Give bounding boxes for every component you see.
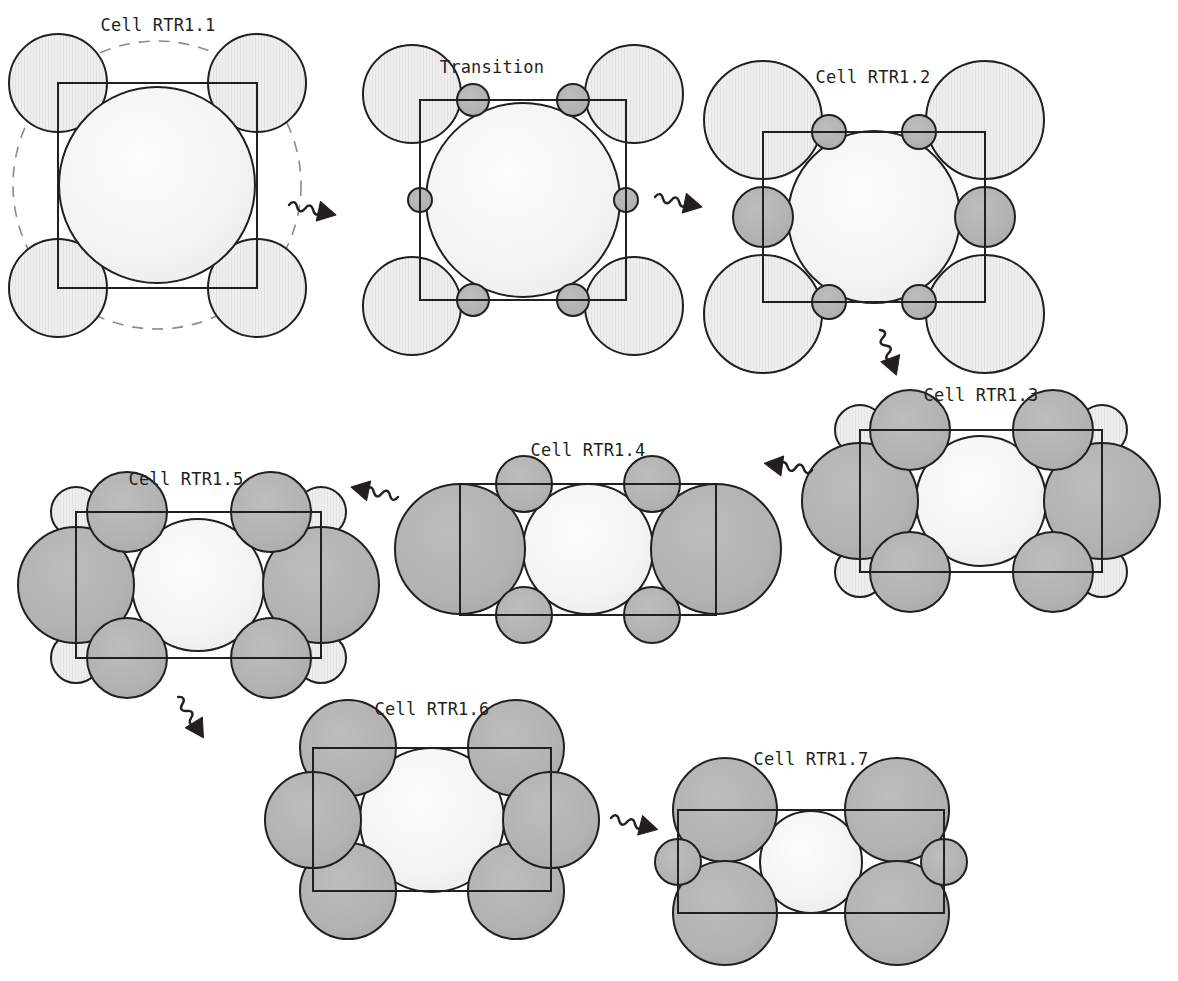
panels-layer xyxy=(9,34,1160,965)
panel-rtr1-2 xyxy=(704,61,1044,373)
panel-rtr1-7 xyxy=(655,758,967,965)
transition-corner-sphere-br xyxy=(585,257,683,355)
arrow-rtr1-2-to-rtr1-3 xyxy=(871,327,906,379)
arrow-head-icon xyxy=(316,201,338,224)
rtr1-1-center-sphere xyxy=(59,87,255,283)
arrow-head-icon xyxy=(682,193,704,216)
transition-corner-sphere-bl xyxy=(363,257,461,355)
squiggle-line xyxy=(610,814,644,829)
panel-label-rtr1-6: Cell RTR1.6 xyxy=(375,699,490,719)
arrow-transition-to-rtr1-2 xyxy=(653,187,704,217)
panel-label-rtr1-3: Cell RTR1.3 xyxy=(924,385,1039,405)
squiggle-line xyxy=(365,486,399,500)
panel-label-rtr1-1: Cell RTR1.1 xyxy=(101,15,216,35)
panel-rtr1-4 xyxy=(395,456,781,643)
arrow-head-icon xyxy=(638,816,660,840)
arrow-head-icon xyxy=(881,355,906,379)
arrow-rtr1-4-to-rtr1-5 xyxy=(349,477,400,507)
transition-corner-sphere-tr xyxy=(585,45,683,143)
figure-canvas: Cell RTR1.1TransitionCell RTR1.2Cell RTR… xyxy=(0,0,1178,981)
panel-label-rtr1-2: Cell RTR1.2 xyxy=(816,67,931,87)
arrow-rtr1-1-to-transition xyxy=(287,195,338,225)
panel-label-rtr1-7: Cell RTR1.7 xyxy=(754,749,869,769)
panel-label-rtr1-4: Cell RTR1.4 xyxy=(531,440,646,460)
rtr1-2-center-sphere xyxy=(788,131,960,303)
panel-transition xyxy=(363,45,683,355)
panel-rtr1-1 xyxy=(9,34,306,337)
squiggle-line xyxy=(654,193,688,207)
arrow-head-icon xyxy=(763,453,784,475)
panel-label-transition: Transition xyxy=(440,57,544,77)
panel-label-rtr1-5: Cell RTR1.5 xyxy=(129,469,244,489)
transition-center-sphere xyxy=(426,103,620,297)
arrow-rtr1-5-to-rtr1-6 xyxy=(170,692,212,743)
panel-rtr1-3 xyxy=(802,390,1160,612)
squiggle-line xyxy=(779,462,813,474)
cell-transformation-diagram: Cell RTR1.1TransitionCell RTR1.2Cell RTR… xyxy=(0,0,1178,981)
arrow-rtr1-3-to-rtr1-4 xyxy=(763,453,813,479)
arrow-rtr1-6-to-rtr1-7 xyxy=(609,808,660,839)
panel-rtr1-6 xyxy=(265,700,599,939)
arrow-head-icon xyxy=(349,477,371,500)
squiggle-line xyxy=(288,201,322,215)
panel-rtr1-5 xyxy=(18,472,379,698)
